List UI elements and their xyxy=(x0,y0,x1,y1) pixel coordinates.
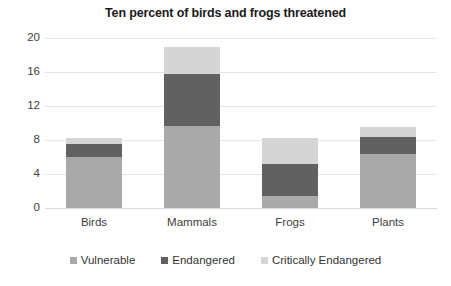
legend-label: Critically Endangered xyxy=(272,255,381,267)
bar-stack-plants[interactable] xyxy=(360,127,416,208)
legend-item-critically-endangered[interactable]: Critically Endangered xyxy=(261,255,381,267)
chart-legend: VulnerableEndangeredCritically Endangere… xyxy=(0,255,451,267)
bars-layer xyxy=(45,38,437,208)
bar-segment-frogs-vulnerable[interactable] xyxy=(262,196,318,208)
bar-segment-mammals-endangered[interactable] xyxy=(164,74,220,127)
bar-segment-plants-endangered[interactable] xyxy=(360,137,416,153)
legend-label: Vulnerable xyxy=(81,255,136,267)
y-tick-label: 20 xyxy=(0,32,40,44)
bar-segment-birds-vulnerable[interactable] xyxy=(66,157,122,208)
y-tick-label: 12 xyxy=(0,100,40,112)
y-tick-label: 4 xyxy=(0,168,40,180)
stacked-bar-chart: Ten percent of birds and frogs threatene… xyxy=(0,0,451,286)
legend-swatch-icon xyxy=(161,257,168,264)
bar-segment-plants-critically-endangered[interactable] xyxy=(360,127,416,137)
bar-segment-mammals-critically-endangered[interactable] xyxy=(164,47,220,74)
x-tick-label-birds: Birds xyxy=(39,216,149,228)
x-tick-label-plants: Plants xyxy=(333,216,443,228)
x-tick-label-frogs: Frogs xyxy=(235,216,345,228)
bar-segment-plants-vulnerable[interactable] xyxy=(360,154,416,208)
bar-stack-birds[interactable] xyxy=(66,138,122,208)
chart-title: Ten percent of birds and frogs threatene… xyxy=(0,6,451,20)
legend-swatch-icon xyxy=(70,257,77,264)
bar-segment-frogs-endangered[interactable] xyxy=(262,164,318,196)
legend-label: Endangered xyxy=(172,255,235,267)
y-tick-label: 0 xyxy=(0,202,40,214)
legend-item-vulnerable[interactable]: Vulnerable xyxy=(70,255,136,267)
x-axis: BirdsMammalsFrogsPlants xyxy=(45,216,437,236)
y-axis: 048121620 xyxy=(0,38,40,208)
y-tick-label: 16 xyxy=(0,66,40,78)
y-tick-label: 8 xyxy=(0,134,40,146)
bar-segment-frogs-critically-endangered[interactable] xyxy=(262,138,318,164)
legend-swatch-icon xyxy=(261,257,268,264)
legend-item-endangered[interactable]: Endangered xyxy=(161,255,235,267)
bar-stack-frogs[interactable] xyxy=(262,138,318,208)
bar-stack-mammals[interactable] xyxy=(164,47,220,208)
gridline-0 xyxy=(45,208,437,209)
bar-segment-mammals-vulnerable[interactable] xyxy=(164,126,220,208)
x-tick-label-mammals: Mammals xyxy=(137,216,247,228)
bar-segment-birds-endangered[interactable] xyxy=(66,144,122,157)
